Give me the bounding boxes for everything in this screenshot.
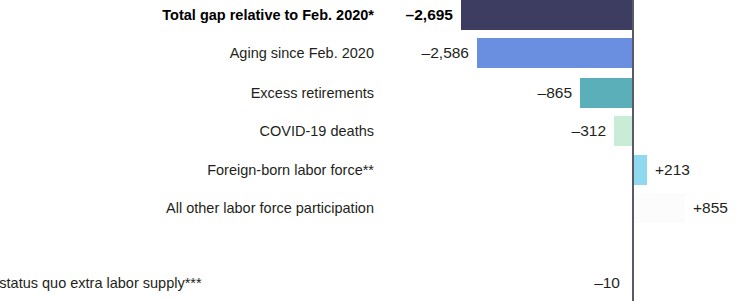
value-label-status-quo-extra-labor-supply: –10 [548, 268, 620, 298]
bar-all-other-participation [634, 193, 685, 223]
category-label-foreign-born: Foreign-born labor force** [0, 155, 374, 185]
bar-covid-deaths [614, 116, 632, 146]
chart-row: al status quo extra labor supply*** –10 [0, 268, 736, 298]
value-label-excess-retirements: –865 [500, 78, 572, 108]
value-label-foreign-born: +213 [655, 155, 727, 185]
category-label-covid-deaths: COVID-19 deaths [0, 116, 374, 146]
category-label-aging: Aging since Feb. 2020 [0, 38, 374, 68]
horizontal-bar-chart: Total gap relative to Feb. 2020* –2,695 … [0, 0, 736, 301]
value-label-all-other-participation: +855 [693, 193, 736, 223]
category-label-all-other-participation: All other labor force participation [0, 193, 374, 223]
category-label-empty [0, 231, 374, 261]
chart-row: Aging since Feb. 2020 –2,586 [0, 38, 736, 68]
chart-row: Total gap relative to Feb. 2020* –2,695 [0, 0, 736, 30]
chart-row-empty [0, 231, 736, 261]
category-label-excess-retirements: Excess retirements [0, 78, 374, 108]
bar-excess-retirements [580, 78, 632, 108]
value-label-covid-deaths: –312 [534, 116, 606, 146]
chart-row: All other labor force participation +855 [0, 193, 736, 223]
value-label-aging: –2,586 [397, 38, 469, 68]
chart-row: Excess retirements –865 [0, 78, 736, 108]
value-label-total-gap: –2,695 [381, 0, 453, 30]
value-label-empty [655, 231, 727, 261]
chart-row: COVID-19 deaths –312 [0, 116, 736, 146]
category-label-total-gap: Total gap relative to Feb. 2020* [0, 0, 374, 30]
bar-foreign-born [634, 155, 647, 185]
category-label-status-quo-extra-labor-supply: al status quo extra labor supply*** [0, 268, 584, 298]
chart-row: Foreign-born labor force** +213 [0, 155, 736, 185]
bar-total-gap [461, 0, 632, 30]
bar-aging [477, 38, 632, 68]
